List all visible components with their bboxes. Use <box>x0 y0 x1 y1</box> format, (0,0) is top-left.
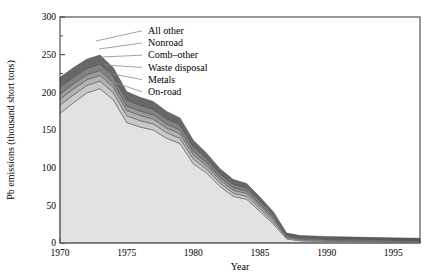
leader-line-2 <box>101 55 142 57</box>
legend-label-on-road: On-road <box>148 86 181 97</box>
y-tick-label: 50 <box>47 201 57 211</box>
chart-container: 050100150200250300 197019751980198519901… <box>0 0 440 278</box>
y-tick-label: 200 <box>42 88 57 98</box>
y-tick-label: 100 <box>42 163 57 173</box>
x-tick-label: 1975 <box>117 248 136 258</box>
leader-line-1 <box>99 43 142 49</box>
legend-label-all-other: All other <box>148 25 184 36</box>
area-band-on-road <box>60 89 420 243</box>
x-tick-label: 1995 <box>384 248 403 258</box>
pb-emissions-stacked-area-chart: 050100150200250300 197019751980198519901… <box>0 0 440 278</box>
y-tick-label: 0 <box>51 238 56 248</box>
stacked-area-series <box>60 55 420 243</box>
legend-label-waste-disposal: Waste disposal <box>148 62 208 73</box>
x-tick-label: 1985 <box>251 248 270 258</box>
y-tick-label: 150 <box>42 125 57 135</box>
x-tick-label: 1990 <box>317 248 336 258</box>
x-tick-label: 1980 <box>184 248 203 258</box>
legend-label-comb-other: Comb–other <box>148 49 199 60</box>
y-axis-title: Pb emissions (thousand short tons) <box>5 60 17 199</box>
leader-line-0 <box>96 31 142 41</box>
x-axis-title: Year <box>231 261 250 272</box>
legend-label-nonroad: Nonroad <box>148 37 183 48</box>
y-tick-label: 300 <box>42 12 57 22</box>
x-tick-label: 1970 <box>51 248 70 258</box>
legend-labels: All otherNonroadComb–otherWaste disposal… <box>148 25 208 97</box>
y-tick-label: 250 <box>42 50 57 60</box>
legend-label-metals: Metals <box>148 74 175 85</box>
